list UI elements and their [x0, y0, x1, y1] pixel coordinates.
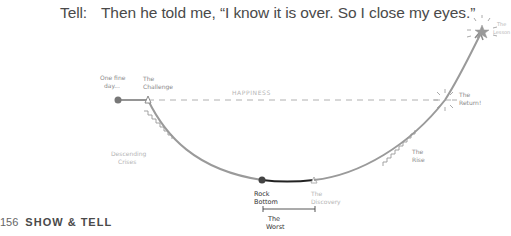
page-footer: 156SHOW & TELL — [0, 216, 112, 228]
worst-segment — [262, 180, 314, 182]
book-title: SHOW & TELL — [25, 216, 112, 228]
start-label-line1: One fine — [100, 74, 126, 81]
rock-bottom-label-line2: Bottom — [254, 198, 278, 206]
rise-label-line1: The — [411, 148, 423, 155]
challenge-label-line2: Challenge — [143, 83, 173, 91]
rise-label-line2: Rise — [412, 156, 425, 163]
descending-label-line2: Crises — [118, 158, 136, 165]
start-dot — [115, 97, 122, 104]
discovery-label-line1: The — [310, 190, 322, 197]
rock-bottom-dot — [259, 177, 266, 184]
descending-stairs-icon — [144, 111, 172, 139]
story-arc-diagram: HAPPINESS — [0, 0, 511, 236]
descent-curve — [148, 100, 262, 180]
lesson-label-line2: Lesson — [493, 29, 510, 35]
lesson-label-line1: The — [496, 21, 506, 27]
return-label-line1: The — [458, 91, 470, 98]
happiness-label: HAPPINESS — [232, 89, 271, 96]
start-label-line2: day... — [104, 82, 120, 90]
challenge-label-line1: The — [142, 75, 154, 82]
return-label-line2: Return! — [459, 99, 481, 106]
rise-curve — [314, 35, 480, 180]
worst-label-line1: The — [267, 215, 280, 223]
page-number: 156 — [0, 216, 18, 228]
discovery-label-line2: Discovery — [311, 198, 341, 206]
worst-range-bar — [263, 206, 315, 212]
rock-bottom-label-line1: Rock — [254, 190, 270, 198]
descending-label-line1: Descending — [111, 150, 147, 158]
worst-label-line2: Worst — [266, 223, 285, 231]
